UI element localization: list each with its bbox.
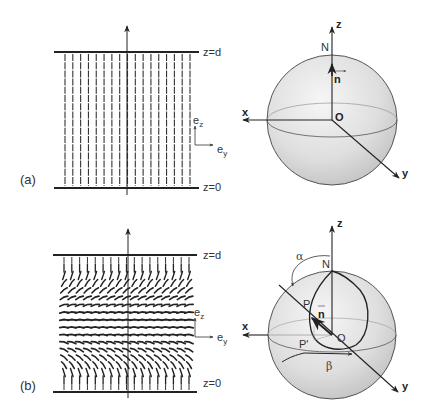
director-dash xyxy=(100,355,107,360)
director-dash xyxy=(108,288,115,293)
basis-vectors-a: ez ey xyxy=(193,114,227,158)
ey-label-b: ey xyxy=(217,331,227,346)
director-dash xyxy=(131,288,138,293)
director-dash xyxy=(92,355,99,360)
director-dash xyxy=(178,288,185,293)
beta-label-b: β xyxy=(326,360,332,373)
director-dash xyxy=(154,342,162,344)
director-dash xyxy=(115,355,122,360)
director-dash xyxy=(123,288,130,293)
director-dash xyxy=(179,280,184,287)
director-dash xyxy=(185,312,193,313)
director-dash xyxy=(155,362,160,369)
director-dash xyxy=(85,280,90,287)
axis-y-label-b: y xyxy=(402,380,409,392)
director-dash xyxy=(171,280,176,287)
director-dash xyxy=(186,355,193,360)
director-dash xyxy=(115,342,123,344)
director-dash xyxy=(170,288,177,293)
director-dash xyxy=(154,355,161,360)
axis-y-label-a: y xyxy=(402,167,409,179)
director-dash xyxy=(130,342,138,344)
director-dash xyxy=(171,362,176,369)
director-dash xyxy=(68,304,76,306)
director-dash xyxy=(62,362,67,369)
director-dash xyxy=(107,348,115,352)
cell-b: z=d z=0 ez ey (b) xyxy=(20,229,227,398)
director-dash xyxy=(91,304,99,306)
figure: z=d z=0 ez ey (a) z N n x O y xyxy=(0,0,428,419)
director-dash xyxy=(108,280,113,287)
ey-label-a: ey xyxy=(217,143,227,158)
director-dash xyxy=(132,362,137,369)
panel-label-a: (a) xyxy=(20,172,36,187)
origin-label-b: O xyxy=(337,332,346,344)
director-dash xyxy=(185,320,193,321)
director-dash xyxy=(91,348,99,352)
director-dash xyxy=(138,304,146,306)
director-dash xyxy=(154,296,162,300)
director-dash xyxy=(77,280,82,287)
director-dash xyxy=(162,296,170,300)
director-dash xyxy=(140,280,145,287)
alpha-label-b: α xyxy=(296,250,304,263)
origin-label-a: O xyxy=(335,111,344,123)
director-dash xyxy=(84,288,91,293)
director-label-a: n xyxy=(334,73,341,85)
axis-z-label-a: z xyxy=(336,18,342,30)
director-dash xyxy=(146,296,154,300)
director-dash xyxy=(99,342,107,344)
director-dash xyxy=(139,288,146,293)
panel-label-b: (b) xyxy=(20,378,36,393)
director-dash xyxy=(69,355,76,360)
director-dash xyxy=(83,304,91,306)
director-dash xyxy=(107,296,115,300)
plate-bottom-label-a: z=0 xyxy=(203,181,221,193)
director-dash xyxy=(76,342,84,344)
director-dash xyxy=(61,288,68,293)
axis-x-label-b: x xyxy=(242,320,249,332)
director-dash xyxy=(76,288,83,293)
sphere-b: z α N P n x O P' β y xyxy=(242,217,409,399)
director-dash xyxy=(147,355,154,360)
axis-x-label-a: x xyxy=(242,106,249,118)
director-dash xyxy=(76,348,84,352)
director-dash xyxy=(101,362,106,369)
north-label-a: N xyxy=(321,41,329,53)
director-dash xyxy=(148,362,153,369)
director-dash xyxy=(148,280,153,287)
director-dash xyxy=(132,280,137,287)
director-dash xyxy=(77,362,82,369)
director-dash xyxy=(146,304,154,306)
director-dash xyxy=(115,348,123,352)
director-dash xyxy=(115,304,123,306)
director-dash xyxy=(162,348,170,352)
director-dash xyxy=(177,342,185,344)
plate-top-label-a: z=d xyxy=(203,46,221,58)
director-dash xyxy=(60,342,68,344)
director-dash xyxy=(170,355,177,360)
director-dash xyxy=(139,355,146,360)
director-dash xyxy=(185,296,193,300)
director-dash xyxy=(92,288,99,293)
director-dash xyxy=(187,362,192,369)
director-dash xyxy=(146,348,154,352)
director-dash xyxy=(169,304,177,306)
director-dash xyxy=(162,355,169,360)
director-dash xyxy=(68,342,76,344)
director-dash xyxy=(162,288,169,293)
sphere-a: z N n x O y xyxy=(242,18,409,185)
director-dash xyxy=(147,288,154,293)
director-dash xyxy=(84,296,92,300)
point-p-proj-label-b: P' xyxy=(299,338,308,350)
panel-b: z=d z=0 ez ey (b) xyxy=(20,217,409,399)
director-dash xyxy=(123,348,131,352)
director-dash xyxy=(162,342,170,344)
director-dash xyxy=(101,280,106,287)
director-dash xyxy=(116,280,121,287)
director-dash xyxy=(68,296,76,300)
director-dash xyxy=(163,362,168,369)
director-dash xyxy=(61,355,68,360)
director-dash xyxy=(69,280,74,287)
director-dash xyxy=(115,288,122,293)
